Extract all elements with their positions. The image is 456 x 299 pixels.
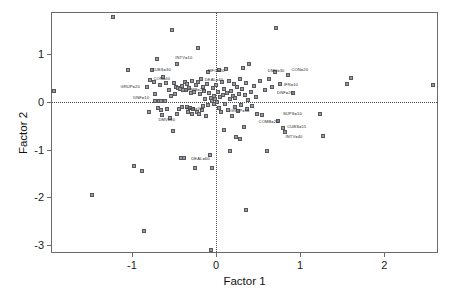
data-point bbox=[267, 77, 271, 81]
y-tick-label: -1 bbox=[34, 144, 44, 156]
data-point bbox=[140, 169, 144, 173]
data-point bbox=[223, 102, 227, 106]
point-annotation: IFR=10 bbox=[284, 82, 298, 87]
data-point bbox=[233, 96, 237, 100]
data-point bbox=[237, 92, 241, 96]
data-point bbox=[164, 81, 168, 85]
data-point bbox=[111, 15, 115, 19]
data-point bbox=[270, 85, 274, 89]
data-point bbox=[321, 134, 325, 138]
data-point bbox=[229, 89, 233, 93]
scatter-plot-figure: Factor 2 INTV=10CUBS=30CON=40GRUP=20DNF=… bbox=[0, 0, 456, 299]
plot-area: INTV=10CUBS=30CON=40GRUP=20DNF=10COMB=20… bbox=[52, 13, 437, 252]
data-point bbox=[431, 83, 435, 87]
data-point bbox=[52, 89, 56, 93]
x-tick bbox=[216, 252, 217, 257]
data-point bbox=[345, 82, 349, 86]
data-point bbox=[216, 90, 220, 94]
point-annotation: INTV=40 bbox=[286, 134, 303, 139]
x-tick bbox=[300, 252, 301, 257]
point-annotation: GRUP=10 bbox=[230, 108, 249, 113]
x-tick bbox=[384, 252, 385, 257]
data-point bbox=[209, 248, 213, 252]
data-point bbox=[244, 208, 248, 212]
point-annotation: CON=20 bbox=[291, 68, 308, 73]
data-point bbox=[171, 129, 175, 133]
data-point bbox=[219, 110, 223, 114]
x-axis-title-text: Factor 1 bbox=[223, 275, 265, 287]
data-point bbox=[227, 79, 231, 83]
point-annotation: CUBS=30 bbox=[152, 68, 171, 73]
data-point bbox=[258, 79, 262, 83]
data-point bbox=[199, 77, 203, 81]
data-point bbox=[265, 149, 269, 153]
data-point bbox=[260, 113, 264, 117]
data-point bbox=[197, 112, 201, 116]
data-point bbox=[175, 112, 179, 116]
data-point bbox=[159, 108, 163, 112]
data-point bbox=[165, 107, 169, 111]
data-point bbox=[318, 112, 322, 116]
data-point bbox=[142, 229, 146, 233]
data-point bbox=[222, 128, 226, 132]
data-point bbox=[254, 95, 258, 99]
data-point bbox=[170, 28, 174, 32]
y-tick bbox=[47, 245, 52, 246]
x-tick-label: 0 bbox=[213, 259, 219, 271]
x-axis-title: Factor 1 bbox=[51, 275, 438, 287]
data-point bbox=[163, 99, 167, 103]
data-point bbox=[349, 76, 353, 80]
y-tick bbox=[47, 54, 52, 55]
y-tick-label: 0 bbox=[38, 96, 44, 108]
y-tick-label: -3 bbox=[34, 239, 44, 251]
data-point bbox=[173, 92, 177, 96]
data-point bbox=[167, 88, 171, 92]
point-annotation: DNF=10 bbox=[133, 96, 149, 101]
point-annotation: GRUP=20 bbox=[120, 85, 139, 90]
point-annotation: SUPS=10 bbox=[283, 112, 302, 117]
data-point bbox=[158, 83, 162, 87]
point-annotation: DNF=20 bbox=[277, 91, 293, 96]
data-point bbox=[155, 57, 159, 61]
zero-line-horizontal bbox=[52, 102, 437, 103]
point-annotation: CUBS=15 bbox=[287, 125, 306, 130]
point-annotation: WEB=30 bbox=[185, 106, 202, 111]
data-point bbox=[196, 46, 200, 50]
data-point bbox=[90, 193, 94, 197]
data-point bbox=[244, 81, 248, 85]
y-axis-title: Factor 2 bbox=[2, 0, 44, 265]
x-tick bbox=[132, 252, 133, 257]
data-point bbox=[153, 92, 157, 96]
point-annotation: COMB=20 bbox=[185, 88, 205, 93]
data-point bbox=[243, 93, 247, 97]
y-axis-title-text: Factor 2 bbox=[17, 111, 29, 153]
x-tick-label: -1 bbox=[127, 259, 137, 271]
data-point bbox=[249, 90, 253, 94]
data-point bbox=[235, 85, 239, 89]
data-point bbox=[278, 82, 282, 86]
point-annotation: DMV=30 bbox=[268, 69, 285, 74]
data-point bbox=[126, 68, 130, 72]
point-annotation: COMB=20 bbox=[259, 120, 279, 125]
data-point bbox=[205, 82, 209, 86]
data-point bbox=[182, 156, 186, 160]
point-annotation: MFG=20 bbox=[208, 69, 225, 74]
data-point bbox=[246, 98, 250, 102]
data-point bbox=[241, 66, 245, 70]
data-point bbox=[238, 77, 242, 81]
data-point bbox=[255, 112, 259, 116]
data-point bbox=[242, 125, 246, 129]
data-point bbox=[210, 166, 214, 170]
data-point bbox=[190, 112, 194, 116]
data-point bbox=[228, 149, 232, 153]
data-point bbox=[203, 97, 207, 101]
y-tick bbox=[47, 197, 52, 198]
data-point bbox=[206, 103, 210, 107]
data-point bbox=[132, 164, 136, 168]
data-point bbox=[204, 114, 208, 118]
data-point bbox=[193, 166, 197, 170]
point-annotation: DEAL=60 bbox=[191, 156, 209, 161]
data-point bbox=[190, 79, 194, 83]
x-tick-label: 1 bbox=[297, 259, 303, 271]
data-point bbox=[147, 110, 151, 114]
